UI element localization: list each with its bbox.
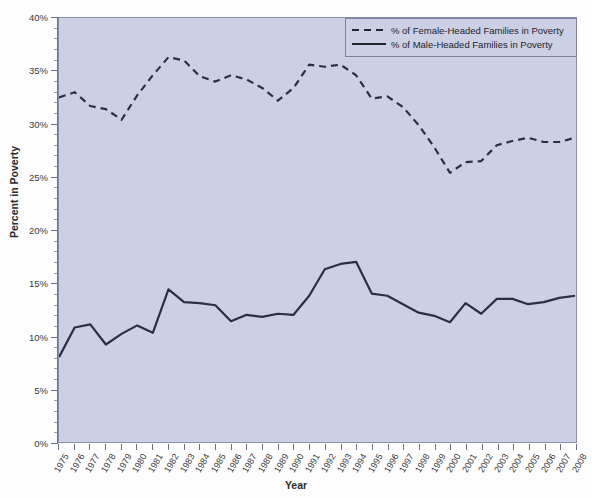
x-tick bbox=[278, 444, 279, 450]
dashed-line-icon bbox=[352, 25, 386, 35]
x-tick bbox=[199, 444, 200, 450]
x-tick-label: 1980 bbox=[130, 452, 149, 474]
x-tick-label: 1988 bbox=[256, 452, 275, 474]
x-tick-label: 1996 bbox=[382, 452, 401, 474]
x-tick bbox=[246, 444, 247, 450]
x-tick bbox=[262, 444, 263, 450]
series-line-male bbox=[59, 262, 575, 357]
x-tick-label: 1999 bbox=[429, 452, 448, 474]
x-tick-label: 1983 bbox=[178, 452, 197, 474]
y-tick-label: 5% bbox=[34, 384, 48, 395]
x-tick-label: 1984 bbox=[193, 452, 212, 474]
x-tick-label: 1977 bbox=[83, 452, 102, 474]
x-tick-label: 2003 bbox=[491, 452, 510, 474]
legend-label-male: % of Male-Headed Families in Poverty bbox=[391, 39, 553, 50]
x-tick bbox=[498, 444, 499, 450]
x-tick bbox=[450, 444, 451, 450]
x-tick bbox=[105, 444, 106, 450]
x-tick-label: 2007 bbox=[554, 452, 573, 474]
plot-area bbox=[58, 17, 577, 443]
y-tick-label: 30% bbox=[29, 118, 48, 129]
x-tick bbox=[89, 444, 90, 450]
x-tick-label: 1981 bbox=[146, 452, 165, 474]
y-axis-title: Percent in Poverty bbox=[8, 112, 20, 272]
x-tick bbox=[356, 444, 357, 450]
x-tick-label: 2006 bbox=[539, 452, 558, 474]
x-tick-label: 1989 bbox=[272, 452, 291, 474]
x-tick bbox=[513, 444, 514, 450]
x-tick bbox=[466, 444, 467, 450]
x-tick-label: 2001 bbox=[460, 452, 479, 474]
x-tick bbox=[58, 444, 59, 450]
x-tick bbox=[341, 444, 342, 450]
legend-entry-male: % of Male-Headed Families in Poverty bbox=[352, 37, 570, 51]
x-tick bbox=[435, 444, 436, 450]
x-tick-label: 1992 bbox=[319, 452, 338, 474]
chart-figure: 0%5%10%15%20%25%30%35%40% Percent in Pov… bbox=[0, 0, 592, 498]
y-tick-label: 25% bbox=[29, 171, 48, 182]
x-tick bbox=[168, 444, 169, 450]
x-tick bbox=[184, 444, 185, 450]
x-tick-label: 1998 bbox=[413, 452, 432, 474]
x-tick-label: 1982 bbox=[162, 452, 181, 474]
x-tick-label: 2000 bbox=[444, 452, 463, 474]
x-axis-title: Year bbox=[0, 479, 592, 491]
x-tick-label: 1978 bbox=[99, 452, 118, 474]
x-tick bbox=[325, 444, 326, 450]
legend-entry-female: % of Female-Headed Families in Poverty bbox=[352, 23, 570, 37]
x-tick-label: 1990 bbox=[287, 452, 306, 474]
x-tick bbox=[231, 444, 232, 450]
x-tick bbox=[545, 444, 546, 450]
x-tick-label: 1997 bbox=[397, 452, 416, 474]
x-tick-label: 1979 bbox=[115, 452, 134, 474]
x-tick-label: 2008 bbox=[570, 452, 589, 474]
x-tick-label: 1985 bbox=[209, 452, 228, 474]
x-tick bbox=[74, 444, 75, 450]
x-tick bbox=[121, 444, 122, 450]
y-tick-label: 40% bbox=[29, 12, 48, 23]
x-tick bbox=[388, 444, 389, 450]
x-tick bbox=[309, 444, 310, 450]
x-tick-label: 1995 bbox=[366, 452, 385, 474]
x-tick bbox=[529, 444, 530, 450]
legend-label-female: % of Female-Headed Families in Poverty bbox=[391, 25, 564, 36]
x-tick bbox=[403, 444, 404, 450]
y-tick-label: 0% bbox=[34, 438, 48, 449]
x-tick-label: 2002 bbox=[476, 452, 495, 474]
x-tick bbox=[136, 444, 137, 450]
x-tick bbox=[482, 444, 483, 450]
y-tick-label: 20% bbox=[29, 225, 48, 236]
x-tick bbox=[560, 444, 561, 450]
x-tick bbox=[419, 444, 420, 450]
y-tick-label: 35% bbox=[29, 65, 48, 76]
series-line-female bbox=[59, 57, 575, 173]
x-tick-label: 1994 bbox=[350, 452, 369, 474]
x-tick bbox=[215, 444, 216, 450]
x-tick-label: 2004 bbox=[507, 452, 526, 474]
y-tick-label: 10% bbox=[29, 331, 48, 342]
x-tick bbox=[576, 444, 577, 450]
x-tick-label: 1991 bbox=[303, 452, 322, 474]
plot-lines bbox=[59, 18, 576, 442]
x-tick-label: 1993 bbox=[335, 452, 354, 474]
x-tick bbox=[293, 444, 294, 450]
x-tick-label: 1976 bbox=[68, 452, 87, 474]
x-tick bbox=[372, 444, 373, 450]
solid-line-icon bbox=[352, 39, 386, 49]
x-tick bbox=[152, 444, 153, 450]
x-tick-label: 1987 bbox=[240, 452, 259, 474]
y-tick-label: 15% bbox=[29, 278, 48, 289]
chart-legend: % of Female-Headed Families in Poverty %… bbox=[345, 18, 577, 57]
x-tick-label: 2005 bbox=[523, 452, 542, 474]
x-tick-label: 1986 bbox=[225, 452, 244, 474]
